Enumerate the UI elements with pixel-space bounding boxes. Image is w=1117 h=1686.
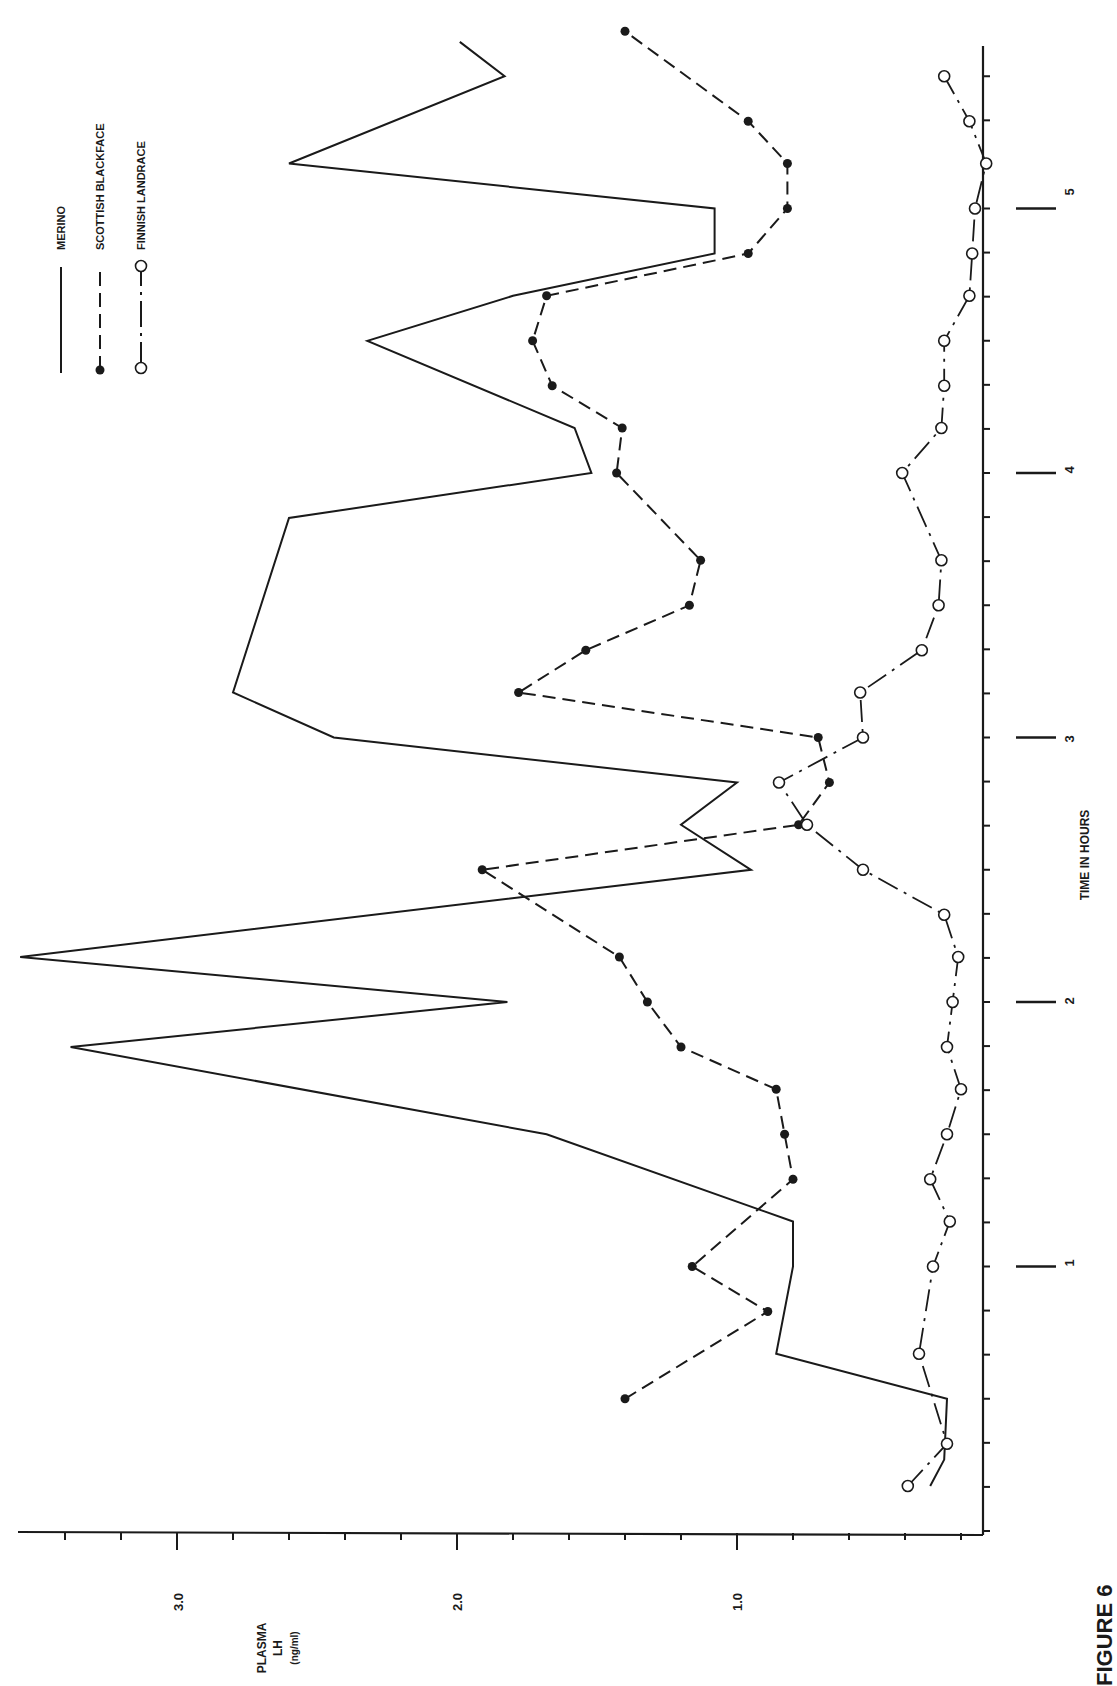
lh-pulse-chart: 3.0 2.0 1.0 PLASMA LH (ng/ml) 1 2 3 4 5 … (0, 0, 1117, 1686)
data-point-finnish-landrace (774, 777, 785, 788)
lh-axis-title: PLASMA LH (ng/ml) (255, 1622, 300, 1673)
data-point-finnish-landrace (939, 335, 950, 346)
data-point-scottish-blackface (783, 159, 792, 168)
data-point-scottish-blackface (763, 1307, 772, 1316)
data-point-finnish-landrace (936, 555, 947, 566)
data-point-scottish-blackface (615, 953, 624, 962)
data-point-finnish-landrace (944, 1216, 955, 1227)
data-point-scottish-blackface (548, 381, 557, 390)
data-point-finnish-landrace (939, 380, 950, 391)
data-point-finnish-landrace (802, 819, 813, 830)
data-point-finnish-landrace (916, 645, 927, 656)
data-point-finnish-landrace (956, 1084, 967, 1095)
lh-axis-title-line-2: LH (271, 1640, 285, 1656)
time-hour-marks (1016, 209, 1056, 1267)
data-point-finnish-landrace (964, 290, 975, 301)
data-point-finnish-landrace (914, 1348, 925, 1359)
figure-caption: FIGURE 6 (1092, 1585, 1117, 1686)
data-point-finnish-landrace (981, 158, 992, 169)
data-point-finnish-landrace (855, 687, 866, 698)
data-point-finnish-landrace (897, 468, 908, 479)
lh-tick-label-1: 1.0 (730, 1593, 745, 1611)
data-point-scottish-blackface (814, 733, 823, 742)
legend-label-merino: MERINO (55, 206, 67, 250)
series-scottish-blackface-line (482, 31, 829, 1399)
lh-tick-labels: 3.0 2.0 1.0 (171, 1593, 745, 1611)
data-point-finnish-landrace (939, 71, 950, 82)
data-point-scottish-blackface (685, 601, 694, 610)
data-point-scottish-blackface (612, 469, 621, 478)
data-point-finnish-landrace (858, 732, 869, 743)
data-point-finnish-landrace (970, 203, 981, 214)
legend-label-scottish-blackface: SCOTTISH BLACKFACE (94, 124, 106, 251)
time-axis-title: TIME IN HOURS (1078, 810, 1092, 901)
data-point-scottish-blackface (789, 1175, 798, 1184)
legend-marker-open-circle-bottom (136, 363, 147, 374)
data-point-finnish-landrace (964, 116, 975, 127)
legend-marker-open-circle-top (136, 261, 147, 272)
time-tick-label-5: 5 (1062, 188, 1077, 195)
data-point-finnish-landrace (967, 248, 978, 259)
data-point-scottish-blackface (688, 1262, 697, 1271)
data-point-finnish-landrace (939, 909, 950, 920)
data-point-scottish-blackface (677, 1042, 686, 1051)
series-scottish-blackface-markers (478, 27, 834, 1403)
legend-label-finnish-landrace: FINNISH LANDRACE (135, 141, 147, 250)
data-point-finnish-landrace (925, 1174, 936, 1185)
time-tick-labels: 1 2 3 4 5 (1062, 188, 1077, 1266)
data-point-finnish-landrace (947, 997, 958, 1008)
lh-tick-label-2: 2.0 (450, 1593, 465, 1611)
series-merino-line (20, 42, 947, 1486)
data-point-scottish-blackface (696, 556, 705, 565)
lh-axis-title-line-1: PLASMA (255, 1622, 269, 1673)
axes (18, 46, 983, 1535)
data-point-finnish-landrace (858, 864, 869, 875)
data-point-finnish-landrace (942, 1129, 953, 1140)
legend-marker-filled-circle (96, 366, 105, 375)
data-point-finnish-landrace (953, 952, 964, 963)
data-point-finnish-landrace (936, 423, 947, 434)
data-point-scottish-blackface (528, 336, 537, 345)
lh-axis-title-line-3: (ng/ml) (289, 1631, 300, 1664)
time-tick-label-2: 2 (1062, 997, 1077, 1004)
lh-tick-label-3: 3.0 (171, 1593, 186, 1611)
data-point-scottish-blackface (772, 1085, 781, 1094)
data-point-scottish-blackface (621, 1394, 630, 1403)
data-point-scottish-blackface (621, 27, 630, 36)
data-point-scottish-blackface (542, 291, 551, 300)
data-point-finnish-landrace (902, 1481, 913, 1492)
data-point-scottish-blackface (744, 249, 753, 258)
data-point-finnish-landrace (942, 1438, 953, 1449)
data-point-finnish-landrace (933, 600, 944, 611)
data-point-scottish-blackface (643, 998, 652, 1007)
data-point-scottish-blackface (744, 117, 753, 126)
legend: MERINO SCOTTISH BLACKFACE FINNISH LANDRA… (55, 124, 147, 375)
data-point-scottish-blackface (581, 646, 590, 655)
time-tick-label-1: 1 (1062, 1259, 1077, 1266)
data-point-finnish-landrace (928, 1261, 939, 1272)
series-finnish-landrace-line (779, 76, 986, 1486)
data-point-scottish-blackface (618, 424, 627, 433)
data-point-scottish-blackface (514, 688, 523, 697)
time-tick-label-4: 4 (1062, 466, 1077, 474)
series-finnish-landrace-markers (774, 71, 992, 1492)
data-point-scottish-blackface (783, 204, 792, 213)
time-tick-label-3: 3 (1062, 735, 1077, 742)
lh-axis-line (18, 1532, 983, 1535)
data-point-scottish-blackface (825, 778, 834, 787)
data-point-finnish-landrace (942, 1041, 953, 1052)
data-point-scottish-blackface (478, 865, 487, 874)
data-point-scottish-blackface (780, 1130, 789, 1139)
